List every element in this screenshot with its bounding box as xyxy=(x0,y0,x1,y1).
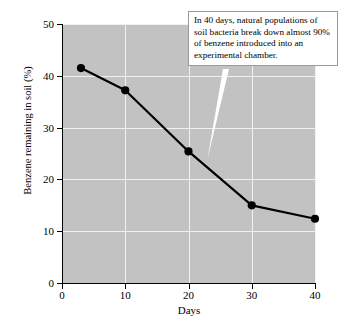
y-axis-tick-label: 10 xyxy=(0,226,54,237)
y-axis-tick xyxy=(57,128,62,129)
y-axis-tick xyxy=(57,231,62,232)
x-axis-title: Days xyxy=(62,304,316,316)
x-axis-tick-label: 40 xyxy=(300,290,330,301)
gridline-vertical xyxy=(125,24,126,283)
benzene-degradation-chart: In 40 days, natural populations of soil … xyxy=(0,0,346,323)
x-axis-tick-label: 30 xyxy=(237,290,267,301)
y-axis-tick-label: 40 xyxy=(0,71,54,82)
y-axis-tick-label: 0 xyxy=(0,278,54,289)
y-axis-tick xyxy=(57,76,62,77)
annotation-text: In 40 days, natural populations of soil … xyxy=(194,15,330,60)
y-axis-line xyxy=(62,24,63,284)
y-axis-tick-label: 20 xyxy=(0,174,54,185)
y-axis-tick xyxy=(57,179,62,180)
x-axis-tick-label: 10 xyxy=(110,290,140,301)
annotation-callout: In 40 days, natural populations of soil … xyxy=(188,11,338,66)
y-axis-tick-label: 30 xyxy=(0,123,54,134)
x-axis-tick-label: 20 xyxy=(174,290,204,301)
y-axis-tick xyxy=(57,24,62,25)
x-axis-tick-label: 0 xyxy=(47,290,77,301)
y-axis-tick-label: 50 xyxy=(0,19,54,30)
